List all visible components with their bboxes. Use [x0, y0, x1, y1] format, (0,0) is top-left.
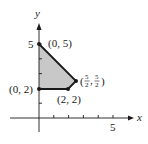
vertex-2-2 [66, 87, 70, 91]
y-axis-label: y [34, 7, 40, 19]
svg-text:5: 5 [95, 73, 99, 81]
svg-text:,: , [90, 74, 93, 86]
x-axis-label: x [136, 111, 142, 123]
vertex-5half-5half [74, 79, 78, 83]
y-axis-arrow-icon [37, 23, 42, 30]
vertex-label-5half-5half: ( 5 2 , 5 2 ) [80, 73, 105, 89]
feasible-region-diagram: y x 5 5 (0, 5) (0, 2) (2, 2) ( 5 2 , 5 2… [0, 0, 148, 144]
vertex-label-2-2: (2, 2) [57, 93, 81, 106]
svg-text:2: 2 [95, 81, 99, 89]
x-tick-label-5: 5 [110, 121, 116, 133]
svg-text:2: 2 [85, 81, 89, 89]
vertex-label-0-2: (0, 2) [9, 83, 33, 96]
y-tick-label-5: 5 [28, 38, 34, 50]
svg-text:): ) [101, 75, 105, 88]
vertex-label-0-5: (0, 5) [48, 37, 72, 50]
x-axis-arrow-icon [128, 116, 134, 121]
svg-text:5: 5 [85, 73, 89, 81]
vertex-0-5 [37, 42, 41, 46]
svg-text:(: ( [80, 75, 84, 88]
vertex-0-2 [37, 87, 41, 91]
